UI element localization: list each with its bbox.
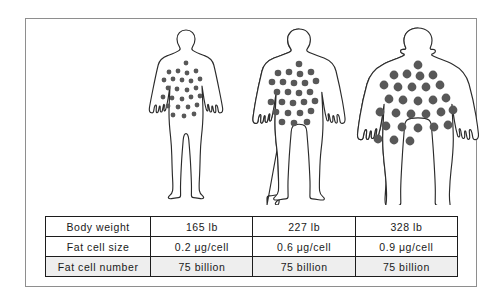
row-label-fat-cell-number: Fat cell number [46, 257, 151, 277]
body-figures-area [26, 19, 476, 209]
cell-fat-cell-size-3: 0.9 μg/cell [355, 237, 457, 257]
fat-cell-data-table: Body weight 165 lb 227 lb 328 lb Fat cel… [45, 216, 458, 277]
row-label-body-weight: Body weight [46, 217, 151, 237]
cell-body-weight-2: 227 lb [253, 217, 355, 237]
body-figure-slim [138, 25, 234, 205]
body-figure-overweight [244, 25, 354, 205]
cell-body-weight-1: 165 lb [151, 217, 253, 237]
table-row: Body weight 165 lb 227 lb 328 lb [46, 217, 458, 237]
table-row: Fat cell size 0.2 μg/cell 0.6 μg/cell 0.… [46, 237, 458, 257]
cell-fat-cell-number-2: 75 billion [253, 257, 355, 277]
cell-fat-cell-size-2: 0.6 μg/cell [253, 237, 355, 257]
body-outline-obese-main [358, 28, 479, 205]
cell-body-weight-3: 328 lb [355, 217, 457, 237]
row-label-fat-cell-size: Fat cell size [46, 237, 151, 257]
cell-fat-cell-number-1: 75 billion [151, 257, 253, 277]
body-outline-slim [149, 30, 222, 199]
body-figure-obese [356, 25, 480, 205]
cell-fat-cell-number-3: 75 billion [355, 257, 457, 277]
table-row: Fat cell number 75 billion 75 billion 75… [46, 257, 458, 277]
cell-fat-cell-size-1: 0.2 μg/cell [151, 237, 253, 257]
fat-cell-comparison-panel: Body weight 165 lb 227 lb 328 lb Fat cel… [25, 18, 477, 287]
